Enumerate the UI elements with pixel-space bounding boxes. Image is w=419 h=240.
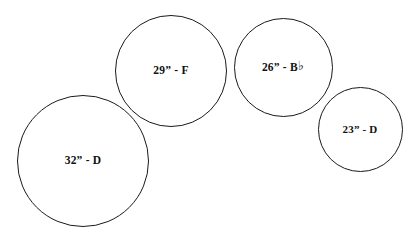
flat-sign-icon: ♭ (298, 59, 304, 73)
drum-label-32-d: 32” - D (65, 155, 102, 167)
drum-circle-29-f[interactable]: 29” - F (115, 15, 227, 127)
drum-label-23-d: 23” - D (342, 124, 377, 135)
drum-label-26-bb-text: 26” - B (262, 61, 298, 73)
drum-circle-23-d[interactable]: 23” - D (318, 87, 403, 172)
drum-size-diagram: 32” - D 29” - F 26” - B♭ 23” - D (0, 0, 419, 240)
drum-circle-26-bb[interactable]: 26” - B♭ (234, 18, 333, 117)
drum-label-26-bb: 26” - B♭ (262, 61, 304, 74)
drum-label-29-f: 29” - F (153, 65, 188, 77)
drum-circle-32-d[interactable]: 32” - D (17, 95, 149, 227)
